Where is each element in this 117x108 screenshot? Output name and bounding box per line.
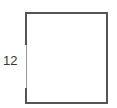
side-length-label: 12 (3, 53, 17, 69)
rectangle-top-edge (25, 12, 108, 14)
rectangle-left-edge-middle (26, 45, 27, 88)
rectangle-left-edge-lower (25, 88, 27, 104)
rectangle-left-edge-upper (25, 12, 27, 45)
rectangle-right-edge (106, 12, 108, 104)
rectangle-bottom-edge (25, 102, 108, 104)
